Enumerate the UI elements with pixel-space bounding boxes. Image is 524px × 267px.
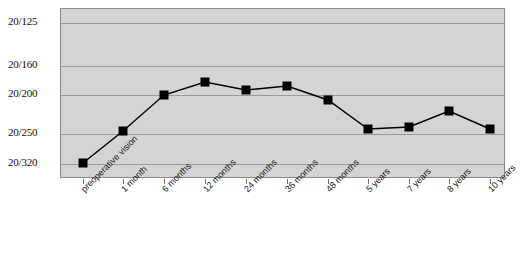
x-tick-label: 1 month [119, 164, 149, 194]
x-tick-label: 24 months [242, 157, 279, 194]
x-tick-label: 10 years [486, 163, 517, 194]
x-tick-label: 7 years [405, 166, 433, 194]
visual-acuity-line-chart: 20/12520/16020/20020/25020/320 preoperat… [0, 0, 524, 267]
x-tick-label: 12 months [201, 157, 238, 194]
x-tick-label: 8 years [445, 166, 473, 194]
x-tick-label: 5 years [364, 166, 392, 194]
x-axis-labels: preoperative vision1 month6 months12 mon… [0, 0, 524, 267]
x-tick-label: 36 months [283, 157, 320, 194]
x-tick-label: 48 months [324, 157, 361, 194]
x-tick-label: 6 months [160, 161, 193, 194]
